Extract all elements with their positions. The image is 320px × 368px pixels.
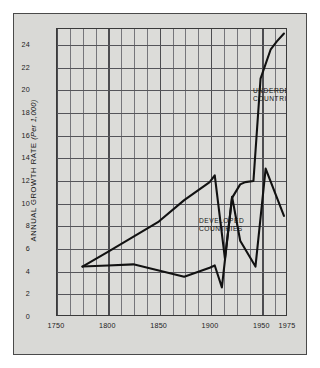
y-axis-tick: 12	[8, 175, 30, 184]
x-axis-tick: 1900	[202, 321, 219, 330]
y-axis-tick: 14	[8, 153, 30, 162]
y-axis-tick: 8	[8, 221, 30, 230]
y-axis-tick: 4	[8, 266, 30, 275]
x-axis-tick: 1950	[253, 321, 270, 330]
y-axis-tick: 22	[8, 62, 30, 71]
x-axis-tick: 1800	[99, 321, 116, 330]
x-axis-tick: 1975	[279, 321, 296, 330]
y-axis-tick: 0	[8, 312, 30, 321]
y-axis-tick: 10	[8, 198, 30, 207]
x-axis-tick: 1750	[48, 321, 65, 330]
series-line-developed	[82, 169, 284, 288]
y-axis-tick: 24	[8, 39, 30, 48]
plot-area: UNDERDEVELOPED COUNTRIES DEVELOPED COUNT…	[56, 28, 287, 316]
y-axis-tick: 6	[8, 243, 30, 252]
x-axis-tick: 1850	[150, 321, 167, 330]
chart-figure: ANNUAL GROWTH RATE (Per 1,000) 024681012…	[13, 13, 307, 355]
series-line-underdeveloped	[82, 34, 284, 267]
data-lines	[57, 29, 286, 315]
series-label-underdeveloped: UNDERDEVELOPED COUNTRIES	[253, 87, 287, 104]
y-axis-tick: 18	[8, 107, 30, 116]
series-label-developed: DEVELOPED COUNTRIES	[199, 217, 244, 234]
y-axis-tick: 20	[8, 85, 30, 94]
y-axis-tick: 16	[8, 130, 30, 139]
y-axis-tick: 2	[8, 289, 30, 298]
